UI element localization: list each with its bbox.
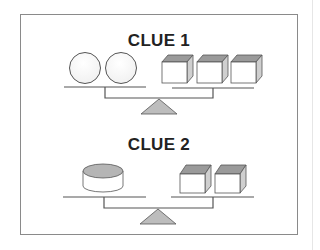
balance-beam <box>64 87 254 98</box>
sphere-icon <box>106 53 137 84</box>
fulcrum-icon <box>140 209 176 224</box>
clue-1-balance-scale <box>64 53 262 115</box>
balance-beam <box>63 197 254 208</box>
fulcrum-icon <box>141 99 177 114</box>
cylinder-icon <box>83 164 123 192</box>
cube-icon <box>197 55 228 83</box>
cube-icon <box>215 165 246 193</box>
clue-2-balance-scale <box>63 164 254 224</box>
sphere-icon <box>70 53 101 84</box>
cube-icon <box>231 55 262 83</box>
cube-icon <box>162 55 193 83</box>
cube-icon <box>180 165 211 193</box>
